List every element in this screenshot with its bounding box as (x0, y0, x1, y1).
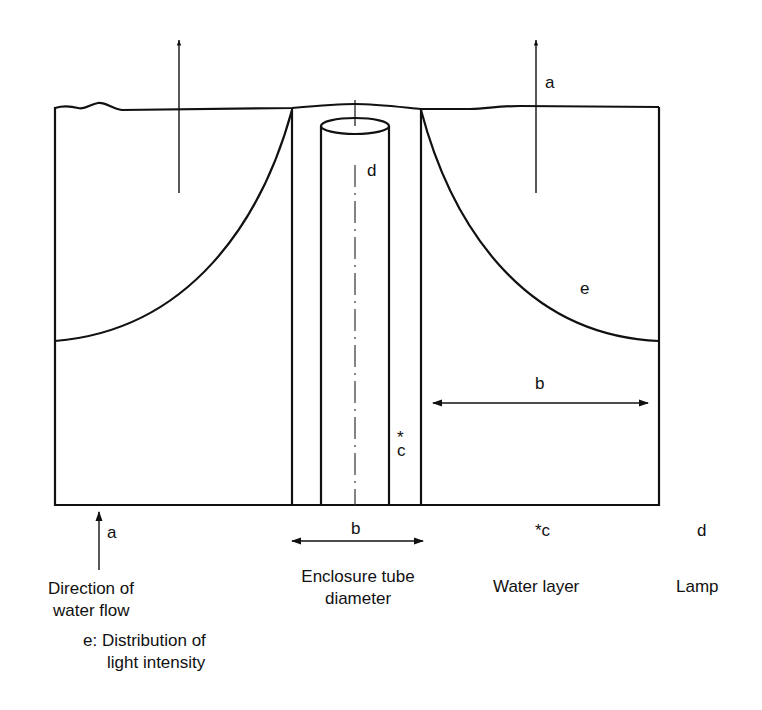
water-layer-c-label: c (397, 440, 406, 461)
light-intensity-curve-left (55, 110, 292, 341)
light-intensity-curve-right (421, 110, 659, 341)
legend-a-text-line1: Direction of (48, 578, 134, 599)
legend-c-marker: *c (535, 520, 550, 541)
legend-b-text-line2: diameter (283, 588, 433, 609)
legend-c-text: Water layer (493, 576, 579, 597)
water-layer-width-label: b (535, 373, 544, 394)
legend-d-marker: d (697, 520, 706, 541)
legend-a-marker: a (107, 522, 116, 543)
legend-d-text: Lamp (676, 576, 719, 597)
legend-e-text-line2: light intensity (107, 652, 205, 673)
legend-b-text-line1: Enclosure tube (283, 566, 433, 587)
curve-label: e (580, 278, 589, 299)
legend-a-text-line2: water flow (53, 600, 130, 621)
legend-b-marker: b (351, 518, 360, 539)
water-surface-line (55, 103, 659, 110)
legend-e-text-line1: e: Distribution of (83, 630, 206, 651)
outer-vessel (55, 107, 659, 505)
flow-arrow-label: a (545, 72, 554, 93)
lamp-label: d (367, 160, 376, 181)
